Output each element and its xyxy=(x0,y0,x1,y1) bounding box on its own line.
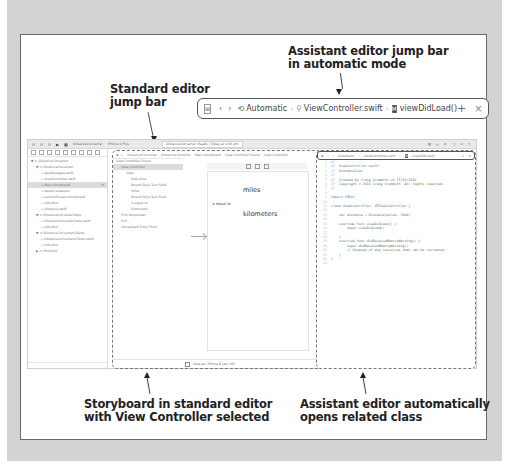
source-control-icon[interactable] xyxy=(39,150,44,155)
jump-symbol[interactable]: viewDidLoad() xyxy=(412,154,435,158)
outline-toggle-icon[interactable] xyxy=(185,362,190,367)
code-line: 24 xyxy=(317,261,475,265)
code-text: // DistanceConv xyxy=(331,169,363,173)
disclosure-triangle-icon[interactable]: ▼ ▭ xyxy=(36,231,44,235)
scheme-selector[interactable]: DistanceConverter xyxy=(73,142,103,146)
miles-label[interactable]: miles xyxy=(243,186,260,194)
is-equal-to-label[interactable]: is equal to xyxy=(212,202,231,206)
forward-chevron-icon[interactable]: › xyxy=(333,154,334,158)
outline-item-label: Round Style Text Field xyxy=(131,183,166,187)
breadcrumb-item[interactable]: DistanceConverter xyxy=(127,153,157,157)
view-toggle-buttons[interactable]: ▯ ▭ ▯ xyxy=(453,142,472,146)
issue-icon[interactable] xyxy=(63,150,68,155)
related-items-icon[interactable]: ⊞ xyxy=(204,104,211,114)
close-window-button[interactable] xyxy=(32,143,35,146)
code-text: // Copyright © 2016 Craig Grummitt. All … xyxy=(331,182,444,186)
outline-item-label: Exit xyxy=(121,219,127,223)
outline-item-label: View xyxy=(126,171,134,175)
method-icon: M xyxy=(405,154,409,158)
assistant-jump-bar-enlarged[interactable]: ⊞ ‹ › ⟲ Automatic › ⚲ ViewController.swi… xyxy=(197,98,489,119)
status-time: Today at 4:05 pm xyxy=(211,142,239,146)
outline-item-label: First Responder xyxy=(121,213,146,217)
method-icon: M xyxy=(392,105,397,113)
project-navigator: ▼ ▭ DistanceConverter▼ ▭ DistanceConvert… xyxy=(28,149,108,370)
assistant-editor-jump-bar[interactable]: ⊞ ‹ › Automatic › ViewController.swift ›… xyxy=(317,151,475,160)
symbol-icon[interactable] xyxy=(47,150,52,155)
navigator-item-label: Distance.swift xyxy=(44,207,66,211)
disclosure-triangle-icon[interactable]: ▼ ▭ xyxy=(36,165,44,169)
navigator-item-label: Main.storyboard xyxy=(44,183,70,187)
view-as-device[interactable]: View as: iPhone 8 (wC hR) xyxy=(193,362,235,366)
outline-item-label: Round Style Text Field xyxy=(131,195,166,199)
jump-bar-nav-icons[interactable]: ⊞ ‹ › xyxy=(116,153,123,157)
disclosure-triangle-icon[interactable]: ▼ ▭ xyxy=(31,159,39,163)
add-editor-button[interactable]: + xyxy=(457,102,466,115)
canvas-bottom-bar: View as: iPhone 8 (wC hR) xyxy=(113,359,334,368)
close-editor-button[interactable]: × xyxy=(468,154,471,158)
minimize-window-button[interactable] xyxy=(40,143,43,146)
navigator-item-label: Info.plist xyxy=(44,225,58,229)
test-icon[interactable] xyxy=(71,150,76,155)
breadcrumb-separator: › xyxy=(399,154,400,158)
breadcrumb-separator: › xyxy=(359,154,360,158)
stop-button[interactable]: ■ xyxy=(64,142,68,147)
disclosure-triangle-icon[interactable]: ▼ ▭ xyxy=(36,213,44,217)
outline-item[interactable]: Storyboard Entry Point xyxy=(113,224,183,230)
navigator-item-label: DistanceConverterTests xyxy=(44,213,82,217)
code-text: // xyxy=(331,186,335,190)
source-code-view[interactable]: 1//2// ViewController.swift3// DistanceC… xyxy=(317,160,475,266)
document-outline: View Controller SceneView ControllerView… xyxy=(113,158,184,358)
view-controller-scene[interactable]: miles is equal to kilometers xyxy=(207,171,309,351)
outline-item-label: Storyboard Entry Point xyxy=(121,225,157,229)
outline-item-label: Safe Area xyxy=(131,177,146,181)
jump-mode-automatic[interactable]: Automatic xyxy=(246,104,287,113)
outline-item-label: kilometers xyxy=(131,207,148,211)
related-items-icon[interactable]: ⊞ xyxy=(321,154,324,158)
navigator-item-label: DistanceConverter xyxy=(39,159,69,163)
breadcrumb-item[interactable]: View Controller xyxy=(264,153,288,157)
exit-icon[interactable] xyxy=(264,164,269,169)
editor-mode-buttons[interactable]: ▤ ◎ ⇄ xyxy=(428,142,449,146)
navigator-selector-bar xyxy=(28,149,107,157)
jump-file[interactable]: ViewController.swift xyxy=(304,104,383,113)
outline-item-label: is equal to xyxy=(131,201,148,205)
jump-mode[interactable]: Automatic xyxy=(338,154,354,158)
storyboard-canvas[interactable]: miles is equal to kilometers xyxy=(183,158,334,358)
forward-chevron-icon[interactable]: › xyxy=(228,104,231,113)
outline-item-label: View Controller Scene xyxy=(116,159,151,163)
breakpoint-icon[interactable] xyxy=(87,150,92,155)
disclosure-triangle-icon[interactable]: ▶ ▭ xyxy=(36,249,44,253)
code-text: // Dispose of any resources that can be … xyxy=(331,248,446,252)
xcode-toolbar: ▶ ■ DistanceConverter iPhone 6 Plus Dist… xyxy=(28,140,476,149)
storyboard-entry-arrow[interactable] xyxy=(191,236,205,237)
find-icon[interactable] xyxy=(55,150,60,155)
view-controller-icon[interactable] xyxy=(246,164,251,169)
activity-status: DistanceConverter: Ready | Today at 4:05… xyxy=(162,141,243,148)
navigator-filter-bar[interactable] xyxy=(28,362,107,370)
callout-storyboard: Storyboard in standard editor with View … xyxy=(84,398,272,424)
report-icon[interactable] xyxy=(95,150,100,155)
device-selector[interactable]: iPhone 6 Plus xyxy=(108,142,129,146)
code-text: super.viewDidLoad() xyxy=(331,226,385,230)
folder-icon[interactable] xyxy=(31,150,36,155)
close-editor-button[interactable]: × xyxy=(474,103,482,114)
code-text: } xyxy=(331,257,333,261)
add-editor-button[interactable]: + xyxy=(462,154,465,158)
first-responder-icon[interactable] xyxy=(255,164,260,169)
navigator-item[interactable]: ▶ ▭ Products xyxy=(28,248,107,254)
jump-symbol[interactable]: viewDidLoad() xyxy=(400,104,457,113)
navigator-item-label: DistanceConverterTests.swift xyxy=(44,219,90,223)
xcode-window: ▶ ■ DistanceConverter iPhone 6 Plus Dist… xyxy=(27,139,477,369)
back-chevron-icon[interactable]: ‹ xyxy=(219,104,222,113)
breadcrumb-item[interactable]: Main.storyboard xyxy=(195,153,221,157)
callout-line: in automatic mode xyxy=(288,58,448,71)
jump-file[interactable]: ViewController.swift xyxy=(364,154,395,158)
kilometers-label[interactable]: kilometers xyxy=(243,210,277,218)
breadcrumb-item[interactable]: View Controller Scene xyxy=(225,153,260,157)
back-chevron-icon[interactable]: ‹ xyxy=(328,154,329,158)
debug-icon[interactable] xyxy=(79,150,84,155)
callout-line: jump bar xyxy=(110,96,210,109)
breadcrumb-item[interactable]: DistanceConverter xyxy=(161,153,191,157)
zoom-window-button[interactable] xyxy=(48,143,51,146)
run-button[interactable]: ▶ xyxy=(56,142,59,147)
